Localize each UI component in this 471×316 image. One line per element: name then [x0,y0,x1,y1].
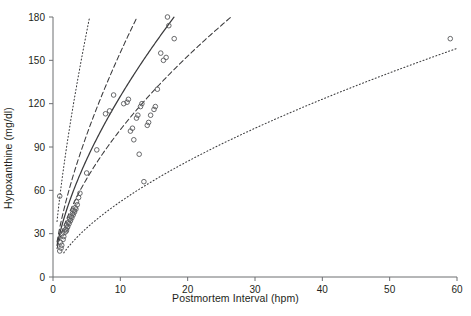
y-tick-label: 90 [34,142,46,153]
data-point [142,179,147,184]
scatter-plot-canvas: 01020304050600306090120150180 [0,0,471,316]
data-point [165,15,170,20]
y-tick-label: 0 [39,272,45,283]
data-point [164,55,169,60]
axis-ticks: 01020304050600306090120150180 [28,12,463,296]
y-tick-label: 120 [28,98,45,109]
x-axis-title: Postmortem Interval (hpm) [0,292,471,304]
data-point [132,137,137,142]
chart-figure: 01020304050600306090120150180 Postmortem… [0,0,471,316]
data-point [74,200,79,205]
prediction-band-lower [64,48,457,252]
data-point [448,36,453,41]
data-point [172,36,177,41]
data-point [148,113,153,118]
data-point [94,148,99,153]
y-tick-label: 60 [34,185,46,196]
y-axis-title: Hypoxanthine (mg/dl) [0,0,16,316]
y-tick-label: 150 [28,55,45,66]
data-point [155,87,160,92]
data-point [161,58,166,63]
y-tick-label: 180 [28,12,45,23]
data-point [158,51,163,56]
data-point [84,171,89,176]
data-point [111,93,116,98]
axis-lines [53,17,457,277]
y-tick-label: 30 [34,228,46,239]
data-point [137,152,142,157]
